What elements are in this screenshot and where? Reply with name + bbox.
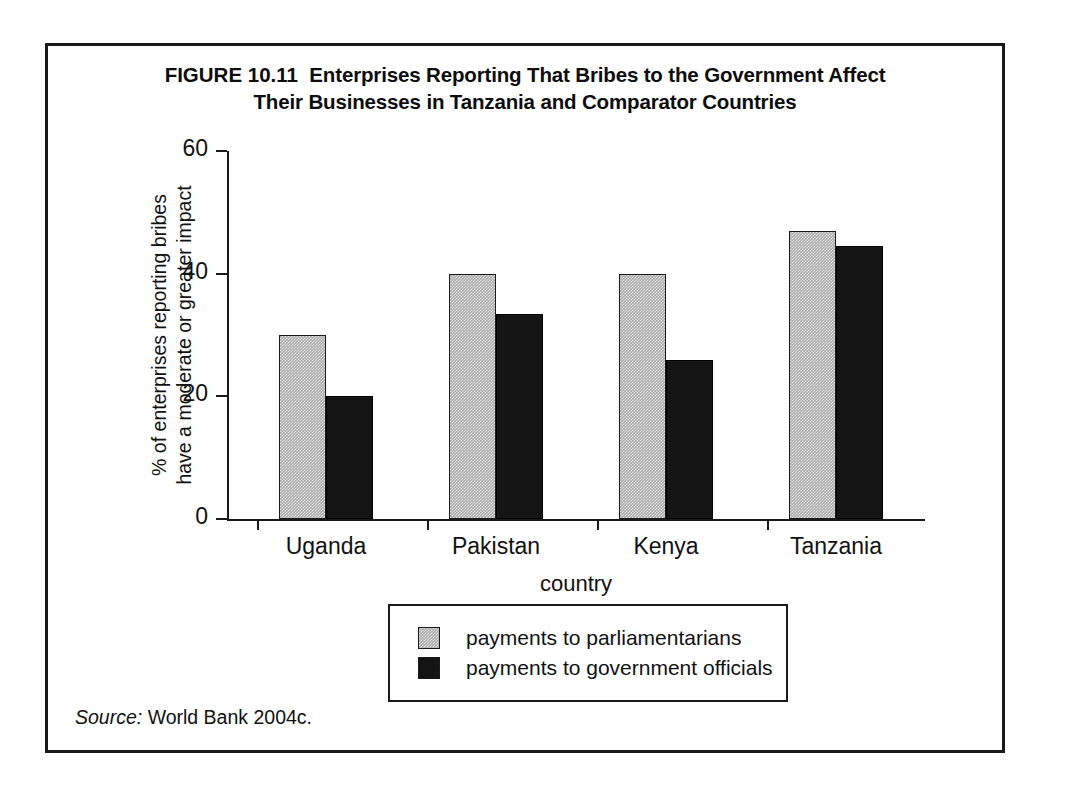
- y-tick-label-0: 0: [195, 505, 208, 528]
- bar-tanzania-series-2: [836, 246, 883, 519]
- x-tick-2: [597, 521, 599, 530]
- legend-swatch-1: [418, 627, 440, 649]
- bar-kenya-series-2: [666, 360, 713, 519]
- legend-label-2: payments to government officials: [466, 656, 773, 680]
- y-axis-title: % of enterprises reporting bribes have a…: [144, 151, 200, 519]
- bar-pakistan-series-1: [449, 274, 496, 519]
- y-tick-0: 0: [216, 518, 227, 520]
- legend: payments to parliamentarianspayments to …: [388, 604, 788, 702]
- y-tick-40: 40: [216, 273, 227, 275]
- source-label: Source:: [75, 706, 148, 728]
- figure-title: FIGURE 10.11Enterprises Reporting That B…: [48, 61, 1002, 115]
- source-text: World Bank 2004c.: [148, 706, 312, 728]
- y-axis-title-line-2: have a moderate or greater impact: [172, 185, 197, 484]
- figure-frame: FIGURE 10.11Enterprises Reporting That B…: [45, 43, 1005, 753]
- y-tick-20: 20: [216, 395, 227, 397]
- x-label-tanzania: Tanzania: [766, 533, 906, 559]
- figure-number-label: FIGURE 10.11: [165, 63, 310, 86]
- y-tick-label-20: 20: [182, 382, 208, 405]
- figure-title-line-2: Their Businesses in Tanzania and Compara…: [48, 88, 1002, 115]
- x-label-uganda: Uganda: [256, 533, 396, 559]
- y-axis-line: [227, 151, 229, 519]
- figure-title-line-1: FIGURE 10.11Enterprises Reporting That B…: [48, 61, 1002, 88]
- source-note: Source:World Bank 2004c.: [75, 706, 312, 728]
- x-label-kenya: Kenya: [596, 533, 736, 559]
- legend-label-1: payments to parliamentarians: [466, 626, 741, 650]
- bar-uganda-series-1: [279, 335, 326, 519]
- y-tick-60: 60: [216, 150, 227, 152]
- y-tick-label-40: 40: [182, 260, 208, 283]
- bar-uganda-series-2: [326, 396, 373, 519]
- bar-pakistan-series-2: [496, 314, 543, 519]
- y-axis-title-line-1: % of enterprises reporting bribes: [147, 194, 172, 476]
- x-label-pakistan: Pakistan: [426, 533, 566, 559]
- x-axis-line: [227, 519, 925, 521]
- y-tick-label-60: 60: [182, 137, 208, 160]
- legend-item-2: payments to government officials: [418, 656, 786, 680]
- x-tick-3: [767, 521, 769, 530]
- legend-item-1: payments to parliamentarians: [418, 626, 786, 650]
- legend-swatch-2: [418, 657, 440, 679]
- bar-kenya-series-1: [619, 274, 666, 519]
- bar-tanzania-series-1: [789, 231, 836, 519]
- x-tick-1: [427, 521, 429, 530]
- x-axis-title: country: [227, 571, 925, 597]
- figure-title-text-1: Enterprises Reporting That Bribes to the…: [309, 63, 885, 86]
- x-tick-0: [257, 521, 259, 530]
- plot-area: 0204060 UgandaPakistanKenyaTanzania coun…: [227, 151, 925, 519]
